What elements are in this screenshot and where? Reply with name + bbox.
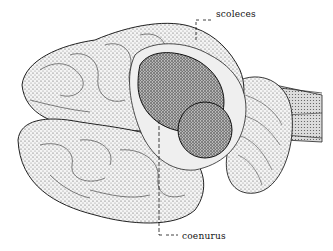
brain-illustration	[0, 0, 333, 251]
label-scoleces: scoleces	[216, 9, 256, 19]
label-coenurus: coenurus	[182, 231, 226, 241]
coenurus-cyst-small	[178, 102, 232, 158]
